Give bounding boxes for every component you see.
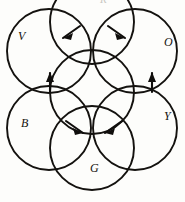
- region-label-violet: V: [18, 30, 25, 42]
- region-label-top-partial: R: [100, 0, 107, 5]
- bottom-left-arrow: [66, 121, 83, 135]
- top-left-arrow: [63, 26, 80, 40]
- region-label-blue: B: [21, 117, 28, 129]
- circle-top: [50, 0, 134, 64]
- circle-bottom: [50, 106, 134, 190]
- top-right-arrow: [108, 26, 125, 40]
- region-label-green: G: [90, 162, 99, 174]
- circle-upper-right: [93, 9, 177, 93]
- circle-lower-left: [7, 86, 91, 170]
- region-label-yellow: Y: [164, 110, 171, 122]
- venn-figure: V O B Y G R: [0, 0, 185, 202]
- bottom-right-arrow: [105, 121, 122, 135]
- region-label-orange: O: [164, 36, 173, 48]
- circle-lower-right: [93, 86, 177, 170]
